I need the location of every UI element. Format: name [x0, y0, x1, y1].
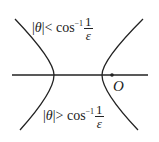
upper-region-label: |θ|< cos−11ε: [32, 15, 93, 42]
origin-point: [110, 73, 114, 77]
origin-label: O: [113, 79, 124, 94]
lower-region-label: |θ|> cos−11ε: [43, 103, 104, 130]
